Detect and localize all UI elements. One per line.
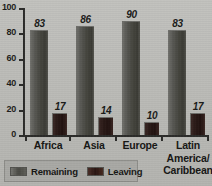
bar-group-europe: 90 10 <box>119 8 161 135</box>
bar-label-europe-leaving: 10 <box>147 110 158 121</box>
bar-group-asia: 86 14 <box>73 8 115 135</box>
y-axis-line <box>23 8 25 137</box>
bar-africa-remaining[interactable]: 83 <box>30 30 48 135</box>
bar-asia-remaining[interactable]: 86 <box>76 26 94 135</box>
bar-chart: 100 80 60 40 20 0 83 17 <box>0 0 212 186</box>
y-tick-20: 20 <box>19 110 24 112</box>
x-label-latin-america-line3: Caribbean <box>163 164 212 177</box>
plot-area: 100 80 60 40 20 0 83 17 <box>23 8 209 137</box>
legend-label-leaving: Leaving <box>108 166 143 177</box>
bar-label-asia-leaving: 14 <box>101 105 112 116</box>
y-tick-60: 60 <box>19 59 24 61</box>
bar-label-africa-leaving: 17 <box>55 101 66 112</box>
bar-latin-america-leaving[interactable]: 17 <box>190 113 205 135</box>
y-tick-100: 100 <box>19 8 24 10</box>
bar-asia-leaving[interactable]: 14 <box>98 117 113 135</box>
x-label-latin-america-line2: America/ <box>163 152 212 165</box>
legend-swatch-leaving <box>87 167 104 176</box>
x-label-latin-america-line1: Latin <box>163 139 212 152</box>
y-tick-label-60: 60 <box>7 53 16 63</box>
x-label-latin-america: Latin America/ Caribbean <box>163 139 212 177</box>
bar-label-europe-remaining: 90 <box>126 9 137 20</box>
legend-swatch-remaining <box>10 167 27 176</box>
x-label-africa: Africa <box>25 139 71 152</box>
bar-europe-remaining[interactable]: 90 <box>122 21 140 135</box>
y-tick-0: 0 <box>19 135 24 137</box>
legend-label-remaining: Remaining <box>31 166 78 177</box>
chart-legend: Remaining Leaving <box>4 160 138 182</box>
x-label-asia: Asia <box>71 139 117 152</box>
bar-latin-america-remaining[interactable]: 83 <box>168 30 186 135</box>
bar-group-latin-america: 83 17 <box>165 8 207 135</box>
legend-item-remaining[interactable]: Remaining <box>10 166 78 177</box>
y-tick-label-80: 80 <box>7 27 16 37</box>
bar-europe-leaving[interactable]: 10 <box>144 122 159 135</box>
bar-africa-leaving[interactable]: 17 <box>52 113 67 135</box>
bar-label-latin-america-leaving: 17 <box>193 101 204 112</box>
bar-label-asia-remaining: 86 <box>80 14 91 25</box>
y-tick-label-20: 20 <box>7 104 16 114</box>
y-tick-label-0: 0 <box>11 129 16 139</box>
bar-label-latin-america-remaining: 83 <box>172 18 183 29</box>
y-tick-40: 40 <box>19 84 24 86</box>
x-label-europe: Europe <box>117 139 163 152</box>
y-tick-80: 80 <box>19 33 24 35</box>
y-tick-label-40: 40 <box>7 78 16 88</box>
bar-label-africa-remaining: 83 <box>34 18 45 29</box>
legend-item-leaving[interactable]: Leaving <box>87 166 143 177</box>
y-tick-label-100: 100 <box>2 2 16 12</box>
bar-group-africa: 83 17 <box>27 8 69 135</box>
